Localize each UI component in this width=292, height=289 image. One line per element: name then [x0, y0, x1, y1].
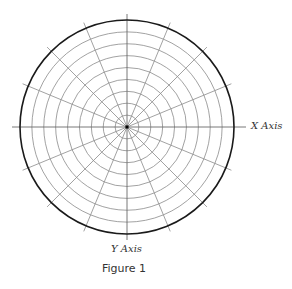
grid-spoke	[23, 84, 127, 127]
figure-caption: Figure 1	[102, 262, 146, 275]
origin-dot	[126, 126, 129, 129]
grid-spoke	[127, 127, 207, 207]
y-axis-label: Y Axis	[111, 243, 142, 254]
grid-spoke	[47, 127, 127, 207]
grid-spoke	[47, 47, 127, 127]
grid-spoke	[23, 127, 127, 170]
axes-lines	[12, 14, 246, 240]
grid-spoke	[127, 127, 231, 170]
grid-spoke	[127, 23, 170, 127]
grid-spoke	[127, 127, 170, 231]
polar-grid-figure: X Axis Y Axis Figure 1	[0, 0, 292, 289]
grid-spoke	[84, 127, 127, 231]
center-point	[126, 126, 129, 129]
x-axis-label: X Axis	[251, 120, 283, 131]
grid-spoke	[127, 47, 207, 127]
grid-spoke	[127, 84, 231, 127]
polar-grid-graphic	[0, 0, 292, 289]
grid-spoke	[84, 23, 127, 127]
